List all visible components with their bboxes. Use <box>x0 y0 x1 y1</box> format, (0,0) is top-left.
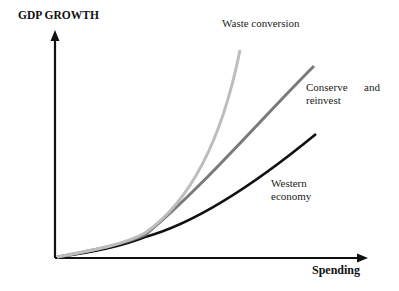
x-axis-arrow-icon <box>357 254 368 263</box>
label-western: Western <box>271 177 307 190</box>
label-reinvest: reinvest <box>306 94 341 107</box>
y-axis-arrow-icon <box>51 30 60 41</box>
x-axis-label: Spending <box>312 263 360 278</box>
label-waste-conversion: Waste conversion <box>222 17 300 30</box>
chart-plot-area <box>0 0 399 291</box>
label-and: and <box>364 81 380 94</box>
label-economy: economy <box>271 190 311 203</box>
series-waste-conversion <box>57 50 240 257</box>
label-conserve: Conserve <box>306 81 348 94</box>
series-conserve-reinvest <box>57 66 314 257</box>
